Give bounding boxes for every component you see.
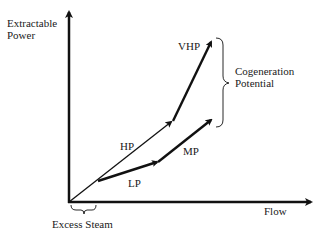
- cogeneration-label-line2: Potential: [235, 77, 274, 90]
- lp-label: LP: [128, 177, 141, 190]
- cogeneration-brace: [216, 38, 229, 127]
- vhp-label: VHP: [178, 40, 200, 53]
- vhp-arrow: [173, 42, 211, 121]
- diagram-canvas: [0, 0, 322, 235]
- excess-steam-brace: [71, 205, 96, 214]
- hp-label: HP: [120, 140, 134, 153]
- mp-label: MP: [183, 145, 199, 158]
- y-axis-label-line2: Power: [7, 29, 35, 42]
- x-axis-label: Flow: [264, 205, 287, 218]
- excess-steam-label: Excess Steam: [52, 218, 113, 231]
